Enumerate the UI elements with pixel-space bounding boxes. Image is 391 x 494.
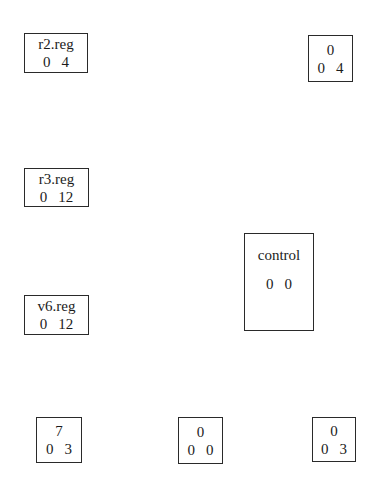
node-value-left: 0 [46, 440, 54, 458]
node-title: 0 [197, 423, 205, 441]
node-value-right: 12 [58, 315, 73, 333]
node-value-left: 0 [321, 440, 329, 458]
node-value-right: 3 [340, 440, 348, 458]
node-title: r2.reg [38, 35, 73, 53]
node-value-left: 0 [40, 315, 48, 333]
node-v6-reg: v6.reg 0 12 [24, 295, 89, 335]
node-values: 0 3 [321, 440, 347, 458]
node-value-right: 0 [285, 275, 293, 293]
node-values: 0 12 [40, 315, 74, 333]
node-value-left: 0 [266, 275, 274, 293]
node-value-left: 0 [43, 53, 51, 71]
node-control: control 0 0 [244, 233, 314, 331]
node-value-left: 0 [318, 59, 326, 77]
node-values: 0 0 [188, 441, 214, 459]
node-title: control [258, 246, 301, 264]
node-title: 0 [327, 41, 335, 59]
node-value-right: 12 [58, 188, 73, 206]
node-values: 0 3 [46, 440, 72, 458]
node-title: 7 [55, 422, 63, 440]
node-r3-reg: r3.reg 0 12 [24, 168, 89, 207]
node-title: r3.reg [39, 170, 74, 188]
node-value-left: 0 [40, 188, 48, 206]
node-values: 0 4 [43, 53, 69, 71]
node-value-right: 4 [62, 53, 70, 71]
node-title: v6.reg [38, 297, 76, 315]
node-r2-reg: r2.reg 0 4 [24, 33, 88, 73]
node-value-right: 0 [206, 441, 214, 459]
node-value-left: 0 [188, 441, 196, 459]
node-place-7-0-3: 7 0 3 [36, 417, 82, 463]
node-place-0-0-3: 0 0 3 [312, 417, 356, 462]
node-title: 0 [330, 422, 338, 440]
node-values: 0 12 [40, 188, 74, 206]
diagram-canvas: r2.reg 0 4 0 0 4 r3.reg 0 12 control 0 0… [0, 0, 391, 494]
node-place-0-0-0: 0 0 0 [178, 417, 223, 464]
node-value-right: 4 [336, 59, 344, 77]
node-place-0-4: 0 0 4 [308, 35, 353, 82]
node-values: 0 0 [266, 275, 292, 293]
node-value-right: 3 [65, 440, 73, 458]
node-values: 0 4 [318, 59, 344, 77]
